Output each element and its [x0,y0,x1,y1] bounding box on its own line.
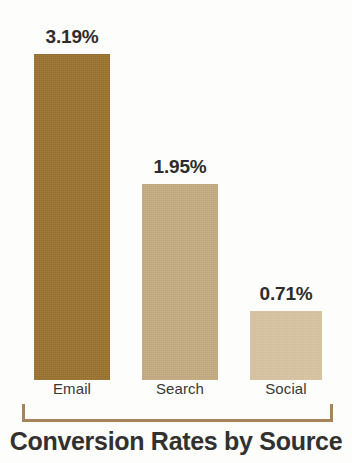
category-label-social: Social [250,380,322,397]
chart-title: Conversion Rates by Source [0,427,352,456]
bar-value-label-email: 3.19% [46,26,99,48]
bar-group-email: 3.19% [34,0,110,380]
x-axis-bracket [22,404,333,422]
bar-value-label-social: 0.71% [260,283,313,305]
category-label-search: Search [142,380,218,397]
category-label-email: Email [34,380,110,397]
plot-area: 3.19% 1.95% 0.71% [0,0,352,380]
bar-chart-figure: 3.19% 1.95% 0.71% Email Search Social Co… [0,0,352,463]
bar-search[interactable] [142,184,218,380]
bar-group-search: 1.95% [142,0,218,380]
bar-social[interactable] [250,311,322,380]
bar-email[interactable] [34,54,110,380]
bar-value-label-search: 1.95% [154,156,207,178]
bar-group-social: 0.71% [250,0,322,380]
